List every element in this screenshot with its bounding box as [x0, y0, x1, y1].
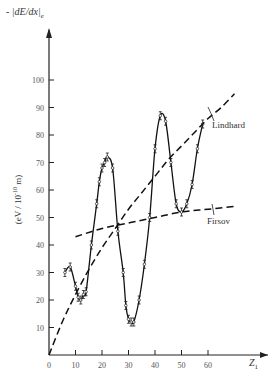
data-point: [111, 167, 114, 170]
y-top-label-sub: e: [41, 12, 44, 20]
lindhard-label: Lindhard: [212, 120, 245, 130]
data-point: [77, 296, 80, 299]
data-point: [95, 202, 98, 205]
y-tick-label: 80: [36, 131, 44, 140]
data-point: [103, 161, 106, 164]
y-tick-label: 90: [36, 104, 44, 113]
data-point: [64, 271, 67, 274]
data-point: [164, 120, 167, 123]
y-unit-exp: -10: [12, 187, 18, 195]
x-tick-label: 0: [47, 361, 51, 370]
x-tick-label: 10: [72, 361, 80, 370]
data-point: [90, 244, 93, 247]
data-point: [85, 290, 88, 293]
y-axis-arrow-icon: [46, 28, 52, 38]
y-tick-label: 60: [36, 186, 44, 195]
data-point: [180, 211, 183, 214]
x-tick-label: 60: [204, 361, 212, 370]
data-point: [127, 318, 130, 321]
x-axis-label-sub: 1: [255, 363, 259, 371]
data-point: [117, 230, 120, 233]
data-point: [69, 266, 72, 269]
x-tick-label: 40: [151, 361, 159, 370]
data-point: [133, 321, 136, 324]
data-point: [80, 299, 83, 302]
data-point: [154, 147, 157, 150]
firsov-label: Firsov: [207, 216, 230, 226]
x-axis-label: Z1: [249, 357, 258, 371]
y-unit-text: (eV / 10: [13, 195, 23, 224]
y-top-label-text: - |dE/dx|: [6, 6, 41, 17]
data-point: [186, 202, 189, 205]
data-point: [74, 285, 77, 288]
firsov-leader: [212, 204, 214, 215]
data-point: [143, 263, 146, 266]
data-point: [101, 167, 104, 170]
lindhard-leader: [208, 107, 214, 121]
data-point: [191, 183, 194, 186]
data-point: [125, 304, 128, 307]
y-tick-label: 100: [32, 76, 44, 85]
chart-canvas: 0102030405060102030405060708090100: [0, 0, 278, 382]
data-point: [170, 161, 173, 164]
y-tick-label: 40: [36, 241, 44, 250]
data-point: [82, 293, 85, 296]
y-unit-end: m): [13, 175, 23, 187]
x-tick-label: 50: [178, 361, 186, 370]
data-point: [175, 202, 178, 205]
data-point: [196, 147, 199, 150]
x-tick-label: 30: [125, 361, 133, 370]
data-point: [98, 180, 101, 183]
y-axis-unit-label: (eV / 10-10 m): [12, 155, 23, 245]
data-point: [130, 321, 133, 324]
x-tick-label: 20: [98, 361, 106, 370]
x-axis-arrow-icon: [260, 352, 268, 358]
y-tick-label: 70: [36, 159, 44, 168]
data-point: [106, 156, 109, 159]
y-tick-label: 20: [36, 296, 44, 305]
y-tick-label: 10: [36, 324, 44, 333]
data-point: [122, 271, 125, 274]
data-point: [138, 299, 141, 302]
data-point: [159, 114, 162, 117]
y-top-label: - |dE/dx|e: [6, 6, 44, 20]
y-tick-label: 30: [36, 269, 44, 278]
y-tick-label: 50: [36, 214, 44, 223]
